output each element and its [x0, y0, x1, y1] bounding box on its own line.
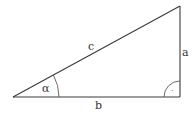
- hypotenuse-c: [13, 6, 180, 97]
- label-alpha: α: [42, 82, 50, 95]
- label-b: b: [95, 99, 102, 112]
- right-triangle-diagram: c a b α ·: [0, 0, 195, 115]
- label-c: c: [88, 40, 94, 53]
- angle-alpha-arc: [53, 75, 59, 97]
- right-angle-dot: ·: [171, 86, 174, 95]
- label-a: a: [182, 46, 189, 59]
